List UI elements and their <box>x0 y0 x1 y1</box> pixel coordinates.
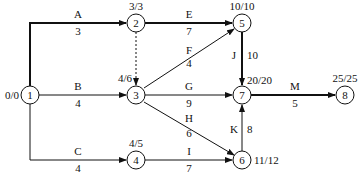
node-1: 1 0/0 <box>5 86 39 104</box>
node-7-times: 20/20 <box>247 74 273 86</box>
node-6-label: 6 <box>239 154 245 166</box>
activity-a-duration: 3 <box>75 25 81 37</box>
activity-i-name: I <box>187 145 191 157</box>
node-4: 4 4/5 <box>127 137 145 169</box>
activity-j-duration: 10 <box>247 49 259 61</box>
activity-h-duration: 6 <box>186 127 192 139</box>
activity-c: C 4 <box>30 104 126 174</box>
node-5-label: 5 <box>239 17 245 29</box>
activity-c-name: C <box>74 145 81 157</box>
node-1-times: 0/0 <box>5 89 20 101</box>
activity-b-name: B <box>74 80 81 92</box>
activity-i-duration: 7 <box>186 162 192 174</box>
activity-e-duration: 7 <box>186 25 192 37</box>
activity-k: K 8 <box>230 105 253 151</box>
node-5: 5 10/10 <box>229 0 255 32</box>
node-7: 7 20/20 <box>233 74 273 104</box>
node-7-label: 7 <box>239 89 245 101</box>
activity-a: A 3 <box>30 8 126 86</box>
node-8-label: 8 <box>342 89 348 101</box>
activity-c-duration: 4 <box>75 162 81 174</box>
activity-m-duration: 5 <box>292 97 298 109</box>
node-3-times: 4/6 <box>118 72 133 84</box>
activity-b: B 4 <box>39 80 126 109</box>
activity-e: E 7 <box>145 8 232 37</box>
activity-g-duration: 9 <box>186 97 192 109</box>
node-6-times: 11/12 <box>254 154 279 166</box>
node-4-times: 4/5 <box>129 137 144 149</box>
node-3-label: 3 <box>133 89 139 101</box>
activity-k-name: K <box>230 123 238 135</box>
activity-b-duration: 4 <box>75 97 81 109</box>
node-4-label: 4 <box>133 154 139 166</box>
activity-e-name: E <box>186 8 193 20</box>
node-2: 2 3/3 <box>127 0 145 32</box>
activity-h-name: H <box>185 112 193 124</box>
activity-a-name: A <box>74 8 82 20</box>
activity-f-duration: 4 <box>186 57 192 69</box>
node-2-label: 2 <box>133 17 139 29</box>
node-2-times: 3/3 <box>129 0 144 12</box>
activity-k-duration: 8 <box>247 123 253 135</box>
activity-i: I 7 <box>145 145 232 174</box>
node-1-label: 1 <box>27 89 33 101</box>
network-diagram: A 3 B 4 C 4 E 7 F 4 G 9 H 6 <box>0 0 361 177</box>
node-3: 3 4/6 <box>118 72 145 104</box>
node-8: 8 25/25 <box>332 72 358 104</box>
activity-f-name: F <box>186 44 192 56</box>
node-8-times: 25/25 <box>332 72 358 84</box>
activity-j-name: J <box>232 49 237 61</box>
activity-m-name: M <box>290 80 300 92</box>
node-5-times: 10/10 <box>229 0 255 12</box>
node-6: 6 11/12 <box>233 151 279 169</box>
activity-g-name: G <box>185 80 193 92</box>
activity-g: G 9 <box>145 80 232 109</box>
